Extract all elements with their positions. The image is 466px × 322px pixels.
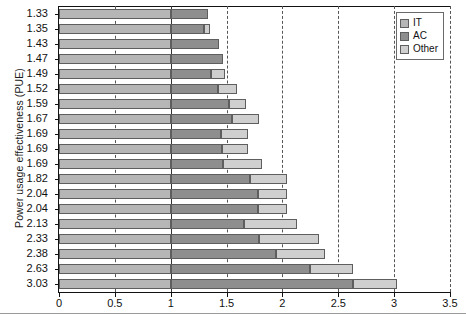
x-tick-mark [338, 292, 339, 297]
legend-item-other[interactable]: Other [400, 43, 438, 55]
x-tick-mark [282, 292, 283, 297]
legend-label: Other [413, 43, 438, 55]
legend-item-ac[interactable]: AC [400, 30, 438, 42]
legend-swatch-it [400, 19, 409, 28]
x-tick-mark [394, 292, 395, 297]
legend-item-it[interactable]: IT [400, 17, 438, 29]
chart-legend: ITACOther [396, 12, 444, 60]
x-tick-label: 3.5 [442, 297, 457, 309]
legend-label: AC [413, 30, 427, 42]
x-tick-mark [59, 292, 60, 297]
x-tick-mark [115, 292, 116, 297]
x-tick-label: 3 [391, 297, 397, 309]
x-tick-label: 1.5 [219, 297, 234, 309]
page-bottom-rule [0, 313, 466, 314]
x-tick-label: 2.5 [331, 297, 346, 309]
x-tick-label: 1 [168, 297, 174, 309]
legend-label: IT [413, 17, 422, 29]
x-tick-mark [171, 292, 172, 297]
legend-swatch-other [400, 45, 409, 54]
x-tick-label: 2 [279, 297, 285, 309]
stacked-bar-chart: Power usage effectiveness (PUE) 1.331.35… [0, 0, 466, 322]
x-tick-label: 0.5 [107, 297, 122, 309]
x-tick-mark [227, 292, 228, 297]
x-tick-mark [450, 292, 451, 297]
legend-swatch-ac [400, 32, 409, 41]
x-tick-label: 0 [56, 297, 62, 309]
